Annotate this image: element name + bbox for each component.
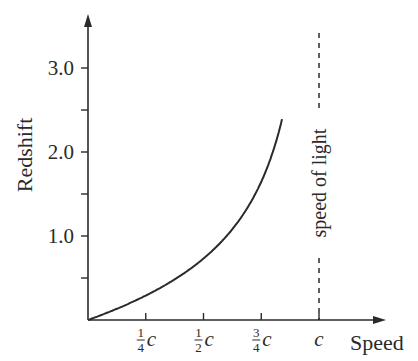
x-axis-arrow-icon [373, 316, 386, 324]
x-tick-denominator: 2 [195, 340, 202, 355]
x-tick-denominator: 4 [253, 340, 260, 355]
redshift-curve [88, 119, 282, 320]
x-tick-denominator: 4 [138, 340, 145, 355]
x-tick-c-symbol: c [262, 327, 272, 351]
x-axis-title: Speed [350, 330, 404, 355]
x-tick-numerator: 1 [138, 325, 145, 340]
speed-of-light-label: speed of light [308, 128, 331, 237]
x-tick-numerator: 3 [253, 325, 260, 340]
x-tick-numerator: 1 [195, 325, 202, 340]
redshift-chart: 1.02.03.0 14c12c34cc Redshift Speed spee… [0, 0, 418, 361]
y-ticks: 1.02.03.0 [48, 56, 88, 278]
y-tick-label: 2.0 [48, 140, 74, 164]
y-tick-label: 1.0 [48, 224, 74, 248]
x-tick-c-symbol: c [147, 327, 157, 351]
axes [88, 22, 378, 320]
y-axis-title: Redshift [12, 118, 37, 193]
x-tick-label: c [314, 327, 324, 351]
y-tick-label: 3.0 [48, 56, 74, 80]
y-axis-arrow-icon [84, 14, 92, 27]
x-tick-c-symbol: c [205, 327, 215, 351]
